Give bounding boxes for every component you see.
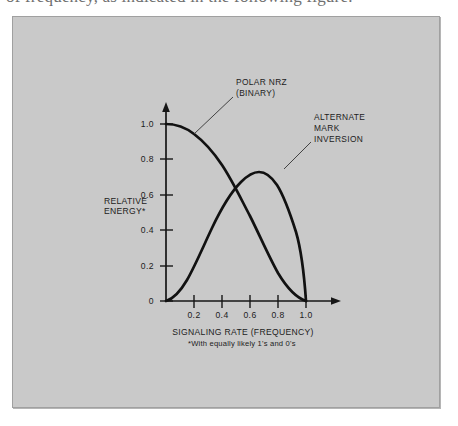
y-axis-title-line1: RELATIVE [104, 196, 147, 206]
cut-off-text-fragment: of frequency, as indicated in the follow… [0, 0, 458, 9]
annotation-ami-line1: ALTERNATE [314, 112, 365, 122]
x-axis-arrowhead [331, 297, 341, 305]
y-axis-arrowhead [162, 102, 170, 112]
figure-panel: 1.0 0.8 0.6 0.4 0.2 0 0.2 0.4 0.6 0.8 1.… [12, 16, 440, 408]
curve-polar-nrz [166, 124, 306, 301]
y-tick-label-0.2: 0.2 [141, 261, 154, 271]
x-tick-label-0.6: 0.6 [243, 310, 256, 320]
x-tick-label-0.8: 0.8 [271, 310, 284, 320]
polar-nrz-leader-line [194, 97, 233, 134]
y-axis-title-line2: ENERGY* [104, 206, 146, 216]
annotation-ami-line3: INVERSION [314, 134, 363, 144]
x-axis-title: SIGNALING RATE (FREQUENCY) [172, 327, 313, 337]
x-tick-label-0.4: 0.4 [215, 310, 228, 320]
y-tick-label-0.4: 0.4 [141, 225, 154, 235]
footnote-text: *With equally likely 1's and 0's [188, 339, 296, 348]
x-tick-label-1.0: 1.0 [299, 310, 312, 320]
annotation-polar-nrz-line1: POLAR NRZ [236, 77, 287, 87]
annotation-ami-line2: MARK [314, 123, 340, 133]
cut-off-text: of frequency, as indicated in the follow… [6, 0, 353, 7]
y-tick-label-0: 0 [149, 296, 154, 306]
annotation-polar-nrz-line2: (BINARY) [236, 88, 275, 98]
y-tick-label-1.0: 1.0 [141, 119, 154, 129]
y-tick-label-0.8: 0.8 [141, 154, 154, 164]
energy-spectrum-chart: 1.0 0.8 0.6 0.4 0.2 0 0.2 0.4 0.6 0.8 1.… [13, 17, 439, 407]
x-tick-label-0.2: 0.2 [187, 310, 200, 320]
ami-leader-line [284, 142, 311, 169]
